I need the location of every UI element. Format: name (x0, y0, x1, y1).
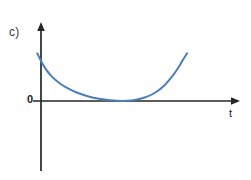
data-curve (37, 53, 187, 101)
plot-area (0, 0, 251, 180)
y-axis-arrowhead-icon (37, 22, 45, 31)
origin-label: 0 (27, 94, 33, 105)
x-axis-label: t (229, 108, 232, 119)
axes-group (33, 22, 240, 171)
data-curve-group (37, 53, 187, 101)
x-axis-arrowhead-icon (231, 97, 240, 105)
figure-container: c) 0 t (0, 0, 251, 180)
